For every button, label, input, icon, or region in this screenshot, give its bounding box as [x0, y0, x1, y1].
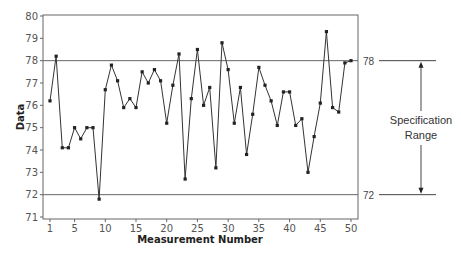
x-tick-label: 40 — [283, 223, 296, 234]
y-axis-label: Data — [15, 104, 26, 131]
x-tick-label: 30 — [222, 223, 235, 234]
data-point — [325, 30, 328, 33]
y-tick-label: 80 — [25, 11, 38, 22]
data-point — [251, 113, 254, 116]
data-point — [141, 70, 144, 73]
x-tick-label: 1 — [47, 223, 53, 234]
data-point — [98, 198, 101, 201]
data-point — [313, 135, 316, 138]
data-point — [116, 79, 119, 82]
data-point — [282, 90, 285, 93]
data-point — [122, 106, 125, 109]
y-tick-label: 71 — [25, 212, 38, 223]
x-tick-label: 45 — [314, 223, 327, 234]
x-tick-label: 50 — [345, 223, 358, 234]
data-point — [165, 122, 168, 125]
arrow-down-icon — [419, 188, 424, 194]
data-point — [257, 66, 260, 69]
control-chart: 7872 71727374757677787980 15101520253035… — [0, 0, 461, 253]
data-point — [128, 97, 131, 100]
x-tick-label: 10 — [99, 223, 112, 234]
data-point — [79, 137, 82, 140]
data-point — [48, 99, 51, 102]
reference-label-78: 78 — [363, 56, 375, 67]
data-point — [288, 90, 291, 93]
data-point — [245, 153, 248, 156]
spec-range-label-line1: Specification — [390, 114, 452, 126]
y-tick-label: 77 — [25, 78, 38, 89]
data-point — [294, 124, 297, 127]
y-tick-label: 76 — [25, 100, 38, 111]
data-point — [208, 86, 211, 89]
data-point — [134, 106, 137, 109]
x-tick-label: 5 — [71, 223, 77, 234]
data-point — [147, 81, 150, 84]
data-point — [227, 68, 230, 71]
x-tick-label: 20 — [160, 223, 173, 234]
data-point — [196, 48, 199, 51]
data-point — [171, 84, 174, 87]
data-point — [337, 110, 340, 113]
y-tick-label: 72 — [25, 189, 38, 200]
y-tick-label: 75 — [25, 122, 38, 133]
data-point — [331, 106, 334, 109]
data-point — [202, 104, 205, 107]
data-point — [55, 55, 58, 58]
data-point — [263, 84, 266, 87]
series-line — [50, 32, 351, 200]
data-point — [91, 126, 94, 129]
data-point — [177, 52, 180, 55]
data-point — [343, 61, 346, 64]
data-point — [104, 88, 107, 91]
arrow-up-icon — [419, 62, 424, 68]
y-tick-label: 74 — [25, 145, 38, 156]
data-point — [220, 41, 223, 44]
x-tick-label: 15 — [130, 223, 143, 234]
x-axis-label: Measurement Number — [137, 234, 263, 245]
data-point — [85, 126, 88, 129]
data-point — [319, 102, 322, 105]
data-point — [300, 117, 303, 120]
data-point — [184, 177, 187, 180]
data-point — [67, 146, 70, 149]
data-point — [153, 68, 156, 71]
spec-range-label-line2: Range — [405, 129, 437, 141]
data-point — [270, 99, 273, 102]
data-point — [349, 59, 352, 62]
reference-label-72: 72 — [363, 190, 375, 201]
data-point — [239, 86, 242, 89]
y-tick-label: 78 — [25, 55, 38, 66]
data-point — [233, 122, 236, 125]
y-tick-label: 73 — [25, 167, 38, 178]
x-tick-label: 35 — [252, 223, 265, 234]
data-point — [214, 166, 217, 169]
data-point — [61, 146, 64, 149]
x-tick-label: 25 — [191, 223, 204, 234]
plot-frame — [43, 15, 358, 219]
data-point — [73, 126, 76, 129]
data-point — [110, 64, 113, 67]
data-point — [159, 79, 162, 82]
y-tick-label: 79 — [25, 33, 38, 44]
data-point — [306, 171, 309, 174]
data-point — [190, 97, 193, 100]
data-point — [276, 124, 279, 127]
